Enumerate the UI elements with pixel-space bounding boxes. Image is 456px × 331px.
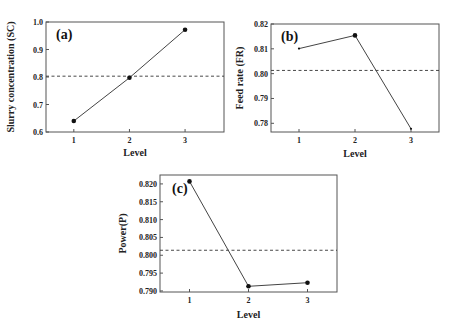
y-tick-label: 0.810	[139, 216, 157, 225]
series-line	[190, 181, 308, 286]
y-tick-label: 0.790	[139, 287, 157, 296]
x-tick-label: 2	[353, 136, 357, 145]
y-tick-label: 0.805	[139, 233, 157, 242]
data-point	[353, 33, 358, 38]
x-tick-label: 2	[127, 136, 131, 145]
x-tick-label: 2	[247, 296, 251, 305]
data-point	[183, 27, 188, 32]
x-tick-label: 1	[297, 136, 301, 145]
x-tick-label: 3	[306, 296, 310, 305]
y-tick-label: 0.820	[139, 180, 157, 189]
series-line	[74, 30, 185, 121]
x-axis-label: Level	[237, 309, 261, 320]
y-tick-label: 0.9	[33, 46, 43, 55]
y-tick-label: 0.80	[254, 70, 268, 79]
y-tick-label: 0.78	[254, 119, 268, 128]
data-point	[72, 119, 77, 124]
x-tick-label: 1	[188, 296, 192, 305]
y-tick-label: 0.7	[33, 101, 43, 110]
y-tick-label: 0.8	[33, 73, 43, 82]
y-tick-label: 0.82	[254, 20, 268, 29]
y-axis-label: Slurry concentration (SC)	[5, 21, 17, 132]
y-tick-label: 0.795	[139, 269, 157, 278]
chart-panel-c: 0.7900.7950.8000.8050.8100.8150.820123Le…	[117, 175, 337, 320]
y-axis-label: Feed rate (FR)	[234, 47, 246, 110]
data-point	[187, 179, 192, 184]
data-point	[410, 128, 412, 130]
panel-label: (c)	[172, 181, 188, 197]
data-point	[305, 280, 310, 285]
y-tick-label: 0.6	[33, 128, 43, 137]
x-axis-label: Level	[343, 148, 367, 159]
chart-panel-a: 0.60.70.80.91.0123LevelSlurry concentrat…	[5, 18, 224, 158]
y-tick-label: 0.815	[139, 198, 157, 207]
chart-panel-b: 0.780.790.800.810.82123LevelFeed rate (F…	[234, 20, 439, 159]
x-tick-label: 1	[72, 136, 76, 145]
y-tick-label: 0.81	[254, 45, 268, 54]
panel-label: (a)	[56, 27, 73, 43]
data-point	[246, 284, 251, 289]
figure-canvas: 0.60.70.80.91.0123LevelSlurry concentrat…	[0, 0, 456, 331]
y-tick-label: 0.800	[139, 251, 157, 260]
y-tick-label: 1.0	[33, 18, 43, 27]
y-tick-label: 0.79	[254, 94, 268, 103]
x-tick-label: 3	[409, 136, 413, 145]
x-tick-label: 3	[183, 136, 187, 145]
data-point	[127, 76, 132, 81]
plot-frame	[46, 22, 224, 132]
panel-label: (b)	[281, 29, 298, 45]
x-axis-label: Level	[123, 147, 147, 158]
data-point	[298, 47, 300, 49]
y-axis-label: Power(P)	[117, 214, 129, 254]
series-line	[299, 35, 411, 128]
